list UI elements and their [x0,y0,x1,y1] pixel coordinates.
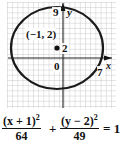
equals-one: = 1 [103,121,120,137]
y-max-label: 9 [53,6,59,18]
ellipse-equation: (x + 1)2 64 + (y − 2)2 49 = 1 [0,112,124,155]
term2-fraction: (y − 2)2 49 [60,114,99,143]
x-axis-label: x [105,60,111,71]
grid [7,2,116,108]
term2-numerator: (y − 2)2 [60,114,99,129]
y-axis-label: y [65,6,72,18]
term1-denominator: 64 [2,129,41,143]
center-label: (−1, 2) [26,28,56,41]
coordinate-plane: (−1, 2) 2 0 9 y 7 x [0,0,124,110]
center-point [54,45,59,50]
term2-denominator: 49 [60,129,99,143]
plus-sign: + [49,121,56,137]
center-y-tick-label: 2 [62,42,68,54]
origin-label: 0 [54,60,60,72]
term1-fraction: (x + 1)2 64 [2,114,41,143]
ellipse-graph: (−1, 2) 2 0 9 y 7 x [0,0,124,110]
x-max-label: 7 [97,66,103,78]
term1-numerator: (x + 1)2 [2,114,41,129]
